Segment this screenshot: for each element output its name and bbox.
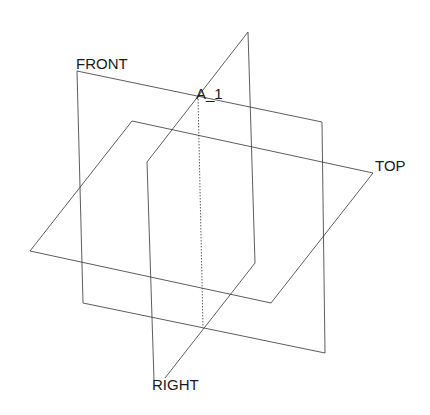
right-label: RIGHT xyxy=(152,377,199,392)
right-plane[interactable] xyxy=(147,32,255,378)
datum-diagram xyxy=(0,0,430,415)
axis-a1-label: A_1 xyxy=(196,86,223,101)
top-label: TOP xyxy=(375,158,406,173)
front-label: FRONT xyxy=(76,56,128,71)
top-plane[interactable] xyxy=(30,121,373,303)
right-plane-left-edge xyxy=(147,162,154,380)
axis-a1[interactable] xyxy=(198,96,203,327)
front-plane[interactable] xyxy=(77,71,325,353)
